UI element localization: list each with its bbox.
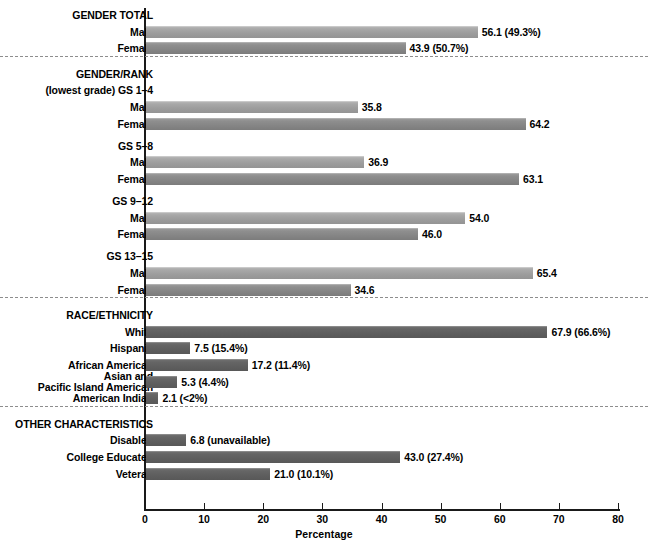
x-tick	[263, 503, 264, 510]
bar	[146, 42, 406, 54]
x-tick	[322, 503, 323, 510]
x-tick-label: 70	[553, 513, 565, 525]
bar-category-label: Female	[0, 41, 153, 55]
bar-value-label: 36.9	[368, 155, 388, 169]
bar-row: Male56.1 (49.3%)	[0, 25, 648, 39]
bar-value-label: 54.0	[469, 211, 489, 225]
bar-category-label: Asian andPacific Island American	[0, 371, 153, 393]
bar-category-label: Female	[0, 283, 153, 297]
bar	[146, 156, 364, 168]
x-tick-label: 50	[435, 513, 447, 525]
rank-group-label-text: GS 5–8	[0, 139, 153, 153]
bar-row: White67.9 (66.6%)	[0, 325, 648, 339]
bar	[146, 434, 186, 446]
bar-value-label: 65.4	[537, 266, 557, 280]
x-tick-label: 40	[376, 513, 388, 525]
bar-category-label: Male	[0, 266, 153, 280]
bar	[146, 173, 519, 185]
section-divider	[0, 406, 648, 407]
bar-row: Disabled6.8 (unavailable)	[0, 433, 648, 447]
bar-value-label: 56.1 (49.3%)	[482, 25, 541, 39]
x-tick	[618, 503, 619, 510]
bar-row: Male65.4	[0, 266, 648, 280]
x-axis-title: Percentage	[0, 528, 648, 540]
bar	[146, 26, 478, 38]
x-tick	[441, 503, 442, 510]
section-divider	[0, 56, 648, 57]
bar	[146, 101, 358, 113]
bar-value-label: 43.0 (27.4%)	[404, 450, 463, 464]
bar-value-label: 7.5 (15.4%)	[194, 341, 247, 355]
bar-row: Male36.9	[0, 155, 648, 169]
bar-category-label: Male	[0, 25, 153, 39]
bar-category-label: Female	[0, 227, 153, 241]
bar-category-label: Female	[0, 172, 153, 186]
bar-value-label: 6.8 (unavailable)	[190, 433, 270, 447]
bar	[146, 376, 177, 388]
rank-group-label: GS 13–15	[0, 249, 648, 263]
bar	[146, 392, 158, 404]
bar-category-label: Female	[0, 117, 153, 131]
bar	[146, 326, 547, 338]
x-tick-label: 60	[494, 513, 506, 525]
bar-category-label: Veteran	[0, 467, 153, 481]
x-tick	[559, 503, 560, 510]
bar-row: Female34.6	[0, 283, 648, 297]
bar-value-label: 63.1	[523, 172, 543, 186]
bar	[146, 468, 270, 480]
bar-value-label: 46.0	[422, 227, 442, 241]
bar	[146, 284, 351, 296]
bar-category-label: College Educated	[0, 450, 153, 464]
bar-row: American Indian2.1 (<2%)	[0, 391, 648, 405]
x-tick	[145, 503, 146, 510]
section-header-label: GENDER TOTAL	[0, 8, 153, 22]
bar-category-label: Male	[0, 211, 153, 225]
bar-category-label: Male	[0, 100, 153, 114]
bar	[146, 267, 533, 279]
bar-row: Hispanic7.5 (15.4%)	[0, 341, 648, 355]
bar-row: Veteran21.0 (10.1%)	[0, 467, 648, 481]
bar-value-label: 64.2	[530, 117, 550, 131]
bar	[146, 228, 418, 240]
section-header-label: OTHER CHARACTERISTICS	[0, 417, 153, 431]
section-header-label: RACE/ETHNICITY	[0, 308, 153, 322]
bar-value-label: 21.0 (10.1%)	[274, 467, 333, 481]
x-tick	[500, 503, 501, 510]
bar-category-label: Hispanic	[0, 341, 153, 355]
bar-value-label: 5.3 (4.4%)	[181, 375, 228, 389]
section-header-gender-total: GENDER TOTAL	[0, 8, 648, 22]
bar-value-label: 34.6	[355, 283, 375, 297]
bar-value-label: 67.9 (66.6%)	[551, 325, 610, 339]
x-tick-label: 10	[198, 513, 210, 525]
bar-row: Asian andPacific Island American5.3 (4.4…	[0, 375, 648, 389]
rank-group-label: GS 5–8	[0, 139, 648, 153]
bar-value-label: 2.1 (<2%)	[162, 391, 207, 405]
bar	[146, 342, 190, 354]
bar-value-label: 43.9 (50.7%)	[410, 41, 469, 55]
x-tick	[382, 503, 383, 510]
bar-row: Male35.8	[0, 100, 648, 114]
bar	[146, 212, 465, 224]
x-tick-label: 80	[612, 513, 624, 525]
section-header-other-characteristics: OTHER CHARACTERISTICS	[0, 417, 648, 431]
rank-group-label: GS 9–12	[0, 194, 648, 208]
bar-value-label: 35.8	[362, 100, 382, 114]
bar-category-label: American Indian	[0, 391, 153, 405]
bar-row: College Educated43.0 (27.4%)	[0, 450, 648, 464]
section-divider	[0, 297, 648, 298]
bar-row: Female43.9 (50.7%)	[0, 41, 648, 55]
x-tick	[204, 503, 205, 510]
horizontal-bar-chart: GENDER TOTALMale56.1 (49.3%)Female43.9 (…	[0, 0, 648, 547]
section-header-race-ethnicity: RACE/ETHNICITY	[0, 308, 648, 322]
bar	[146, 118, 526, 130]
bar-value-label: 17.2 (11.4%)	[252, 358, 310, 372]
bar	[146, 359, 248, 371]
bar	[146, 451, 400, 463]
rank-group-label-text: GS 13–15	[0, 249, 153, 263]
rank-group-label-text: GS 9–12	[0, 194, 153, 208]
bar-category-label: White	[0, 325, 153, 339]
rank-group-label-text: (lowest grade) GS 1–4	[0, 83, 153, 97]
section-header-label: GENDER/RANK	[0, 67, 153, 81]
rank-group-label: (lowest grade) GS 1–4	[0, 83, 648, 97]
x-tick-label: 20	[257, 513, 269, 525]
